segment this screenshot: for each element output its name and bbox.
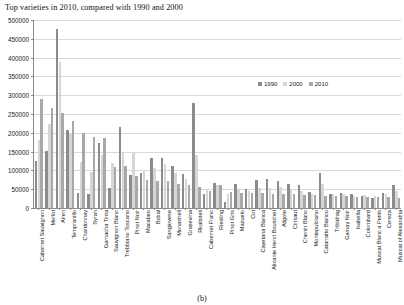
- bar-2010: [303, 195, 306, 208]
- bar-group: [264, 20, 275, 208]
- y-tick-label: 200000: [8, 129, 29, 136]
- bar-2010: [177, 184, 180, 208]
- bar-2010: [61, 113, 64, 208]
- bar-2010: [366, 197, 369, 208]
- bar-2010: [209, 191, 212, 208]
- y-tick-label: 50000: [11, 186, 29, 193]
- x-tick-label: Riesling: [219, 210, 225, 230]
- bar-2010: [335, 196, 338, 208]
- legend-label: 1990: [264, 81, 277, 87]
- y-tick-mark: [31, 152, 33, 153]
- x-tick-label: Chardonnay: [83, 210, 89, 240]
- y-tick-mark: [31, 114, 33, 115]
- bar-group: [170, 20, 181, 208]
- bar-2010: [198, 187, 201, 208]
- legend-label: 2010: [315, 81, 328, 87]
- y-tick-label: 500000: [8, 17, 29, 24]
- bar-group: [390, 20, 401, 208]
- bar-group: [222, 20, 233, 208]
- y-axis-tick-labels: 0500001000001500002000002500003000003500…: [0, 20, 31, 208]
- y-tick-mark: [31, 208, 33, 209]
- x-tick-label: Tribidrag: [335, 210, 341, 232]
- bar-group: [54, 20, 65, 208]
- bar-2010: [93, 137, 96, 208]
- x-tick-label: Syrah: [93, 210, 99, 225]
- y-tick-mark: [31, 189, 33, 190]
- bar-group: [44, 20, 55, 208]
- bar-group: [96, 20, 107, 208]
- bar-group: [107, 20, 118, 208]
- x-tick-label: Aligote: [282, 210, 288, 227]
- x-tick-label: Trebbiano Toscano: [125, 210, 131, 257]
- bar-group: [296, 20, 307, 208]
- bar-2010: [314, 195, 317, 208]
- bar-group: [201, 20, 212, 208]
- bar-2010: [124, 166, 127, 208]
- legend-swatch-icon: [283, 82, 287, 86]
- x-tick-label: Bobal: [156, 210, 162, 224]
- bar-2010: [114, 167, 117, 208]
- x-tick-label: Merlot: [51, 210, 57, 226]
- bar-group: [317, 20, 328, 208]
- legend-swatch-icon: [258, 82, 262, 86]
- x-tick-label: Isabella: [356, 210, 362, 229]
- chart-legend: 199020002010: [258, 81, 328, 87]
- bar-group: [243, 20, 254, 208]
- bar-2010: [293, 194, 296, 208]
- y-tick-mark: [31, 170, 33, 171]
- x-tick-label: Mazuelo: [240, 210, 246, 231]
- bar-2010: [356, 197, 359, 208]
- bar-2010: [345, 196, 348, 208]
- bar-group: [159, 20, 170, 208]
- bar-group: [233, 20, 244, 208]
- x-axis-tick-labels: Cabernet SauvignonMerlotAirenTempranillo…: [33, 210, 401, 295]
- bar-group: [180, 20, 191, 208]
- bar-2010: [324, 196, 327, 208]
- y-tick-label: 0: [25, 205, 29, 212]
- bar-group: [369, 20, 380, 208]
- bar-2010: [377, 197, 380, 208]
- bar-2010: [188, 185, 191, 208]
- y-tick-label: 150000: [8, 148, 29, 155]
- bar-2010: [51, 108, 54, 208]
- y-tick-label: 400000: [8, 54, 29, 61]
- legend-item: 2000: [283, 81, 302, 87]
- x-tick-label: Grasevina: [188, 210, 194, 236]
- x-tick-label: Catarratto Bianco: [324, 210, 330, 254]
- bar-2010: [251, 193, 254, 208]
- bar-groups: [33, 20, 401, 208]
- bar-2010: [398, 198, 401, 208]
- y-tick-mark: [31, 39, 33, 40]
- y-tick-label: 450000: [8, 35, 29, 42]
- plot-area: [33, 20, 401, 208]
- bar-group: [149, 20, 160, 208]
- chart-title: Top varieties in 2010, compared with 199…: [5, 3, 183, 12]
- y-tick-mark: [31, 58, 33, 59]
- bar-group: [327, 20, 338, 208]
- figure-caption: (b): [0, 294, 404, 303]
- bar-2010: [230, 192, 233, 208]
- legend-label: 2000: [289, 81, 302, 87]
- bar-2010: [156, 181, 159, 208]
- bar-group: [33, 20, 44, 208]
- bar-2010: [82, 133, 85, 208]
- x-tick-label: Sangiovese: [167, 210, 173, 239]
- figure-container: Top varieties in 2010, compared with 199…: [0, 0, 404, 305]
- bar-group: [75, 20, 86, 208]
- x-tick-label: Rkatsiteli: [198, 210, 204, 233]
- y-tick-label: 100000: [8, 167, 29, 174]
- x-tick-label: Pinot Gris: [230, 210, 236, 235]
- y-tick-label: 250000: [8, 111, 29, 118]
- x-tick-label: Cinsaut: [293, 210, 299, 229]
- x-tick-label: Monastrell: [177, 210, 183, 236]
- bar-2010: [146, 180, 149, 208]
- x-tick-label: Cayetana Blanca: [261, 210, 267, 253]
- bar-2010: [282, 194, 285, 208]
- x-tick-label: Pinot Noir: [135, 210, 141, 235]
- bar-2010: [272, 194, 275, 208]
- x-tick-label: Airen: [61, 210, 67, 223]
- x-tick-label: Tempranillo: [72, 210, 78, 239]
- bar-group: [86, 20, 97, 208]
- bar-group: [117, 20, 128, 208]
- bar-group: [285, 20, 296, 208]
